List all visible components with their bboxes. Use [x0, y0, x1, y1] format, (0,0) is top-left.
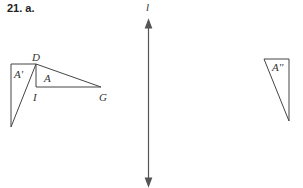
triangle-a-label: A — [43, 72, 51, 84]
vertex-i-label: I — [32, 91, 38, 103]
reflection-diagram: l A A' A'' D I G — [0, 0, 303, 188]
vertex-g-label: G — [99, 91, 107, 103]
triangle-a-double-prime-label: A'' — [271, 61, 284, 73]
vertex-d-label: D — [31, 51, 40, 63]
triangle-a-prime-label: A' — [13, 68, 24, 80]
line-label: l — [146, 1, 149, 13]
line-of-reflection — [146, 20, 152, 186]
